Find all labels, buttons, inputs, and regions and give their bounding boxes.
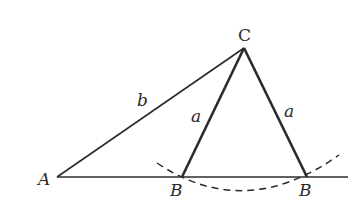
label-point-c: C <box>238 25 251 45</box>
side-b <box>57 48 244 177</box>
label-point-b1: B <box>169 180 183 200</box>
side-a-right <box>244 48 307 177</box>
label-point-b2: B <box>298 180 312 200</box>
triangle-diagram: A C B B b a a <box>0 0 364 211</box>
label-side-a-left: a <box>191 106 201 126</box>
label-side-a-right: a <box>284 101 294 121</box>
label-side-b: b <box>137 90 148 110</box>
label-point-a: A <box>36 169 50 189</box>
